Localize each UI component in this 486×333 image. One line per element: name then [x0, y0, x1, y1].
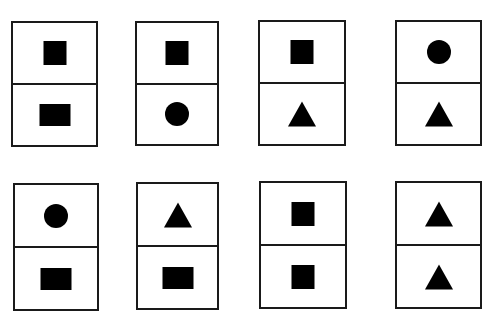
triangle-icon	[425, 264, 453, 289]
card-top-cell	[138, 184, 217, 247]
card-bottom-cell	[397, 84, 480, 144]
card-r1-c1	[11, 21, 98, 147]
card-r1-c3	[258, 20, 346, 146]
card-bottom-cell	[138, 247, 217, 308]
square-icon	[291, 40, 314, 64]
card-top-cell	[15, 185, 97, 248]
card-bottom-cell	[260, 84, 344, 144]
card-top-cell	[397, 183, 480, 246]
triangle-icon	[164, 202, 192, 227]
card-r1-c4	[395, 20, 482, 146]
card-top-cell	[13, 23, 96, 85]
square-icon	[292, 265, 315, 289]
card-r2-c1	[13, 183, 99, 311]
triangle-icon	[288, 102, 316, 127]
card-top-cell	[260, 22, 344, 84]
card-bottom-cell	[397, 246, 480, 307]
card-top-cell	[137, 23, 217, 85]
card-r2-c4	[395, 181, 482, 309]
card-r1-c2	[135, 21, 219, 146]
card-bottom-cell	[13, 85, 96, 145]
circle-icon	[44, 204, 68, 228]
card-top-cell	[397, 22, 480, 84]
triangle-icon	[425, 102, 453, 127]
rectangle-icon	[41, 268, 72, 290]
rectangle-icon	[39, 104, 70, 126]
card-r2-c3	[259, 181, 347, 309]
square-icon	[166, 41, 189, 65]
card-r2-c2	[136, 182, 219, 310]
card-bottom-cell	[137, 85, 217, 145]
card-bottom-cell	[261, 246, 345, 307]
square-icon	[43, 41, 66, 65]
square-icon	[292, 202, 315, 226]
rectangle-icon	[162, 267, 193, 289]
card-top-cell	[261, 183, 345, 246]
circle-icon	[427, 40, 451, 64]
circle-icon	[165, 102, 189, 126]
triangle-icon	[425, 201, 453, 226]
card-bottom-cell	[15, 248, 97, 309]
